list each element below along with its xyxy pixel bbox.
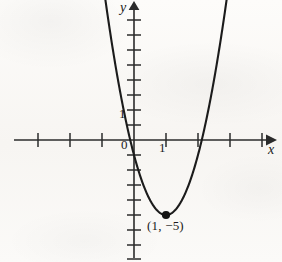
origin-tick-label: 0 (121, 138, 128, 151)
y-tick-label-1: 1 (119, 107, 126, 120)
x-axis-label: x (268, 143, 274, 157)
parabola-figure: ) y x 0 1 1 (1, −5) (0, 0, 282, 262)
y-axis (129, 1, 140, 258)
coordinate-plot (0, 0, 282, 262)
x-axis (14, 135, 277, 146)
y-axis-label: y (120, 1, 126, 15)
x-tick-label-1: 1 (159, 141, 166, 154)
vertex-coordinate-label: (1, −5) (147, 219, 184, 232)
y-axis-arrow-icon (129, 1, 140, 10)
